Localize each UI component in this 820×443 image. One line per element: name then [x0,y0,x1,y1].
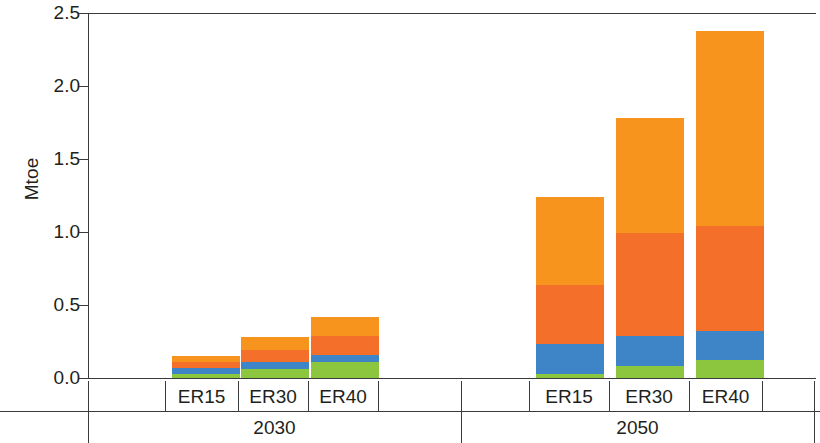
bar-2050-ER30 [616,118,684,378]
group-label-2050: 2050 [461,415,814,440]
category-label: ER40 [689,384,762,409]
bar-segment-blue [536,344,604,373]
bar-segment-blue [241,362,309,369]
y-axis-tick-mark [79,86,88,87]
bar-segment-green [311,362,379,378]
y-axis-tick-mark [79,159,88,160]
bar-segment-green [241,369,309,378]
bar-segment-orange [311,317,379,336]
bar-2050-ER15 [536,197,604,378]
group-separator [814,381,815,443]
bars-layer [88,13,816,378]
category-separator [378,381,379,411]
category-label: ER40 [308,384,378,409]
bar-2030-ER30 [241,337,309,378]
category-axis: ER15ER30ER40ER15ER30ER4020302050 [0,378,820,443]
bar-segment-orange_dark [536,285,604,345]
bar-segment-blue [311,355,379,362]
bar-segment-orange [696,31,764,227]
bar-segment-orange_dark [311,336,379,355]
bar-2050-ER40 [696,31,764,378]
y-axis-tick-label: 1.0 [34,222,80,241]
bar-segment-orange [241,337,309,350]
y-axis-tick-label: 1.5 [34,149,80,168]
y-axis-tick-mark [79,13,88,14]
bar-segment-orange_dark [696,226,764,331]
y-axis-tick-mark [79,305,88,306]
bar-segment-green [616,366,684,378]
category-separator [762,381,763,411]
bar-2030-ER40 [311,317,379,378]
bar-segment-blue [696,331,764,360]
group-label-2030: 2030 [88,415,461,440]
category-label: ER30 [609,384,689,409]
category-label: ER15 [165,384,238,409]
bar-segment-green [696,360,764,378]
bar-segment-orange [536,197,604,285]
y-axis-tick-label: 0.5 [34,295,80,314]
category-axis-underline [0,411,820,412]
y-axis-tick-labels: 2.52.01.51.00.50.0 [0,0,80,443]
bar-2030-ER15 [172,356,240,378]
y-axis-tick-label: 2.0 [34,76,80,95]
y-axis-tick-label: 2.5 [34,3,80,22]
category-label: ER30 [238,384,308,409]
bar-segment-orange_dark [616,233,684,335]
bar-segment-orange [616,118,684,233]
bar-segment-blue [616,336,684,367]
y-axis-tick-mark [79,232,88,233]
category-label: ER15 [529,384,609,409]
bar-segment-orange_dark [241,350,309,362]
bar-chart: Mtoe 2.52.01.51.00.50.0 ER15ER30ER40ER15… [0,0,820,443]
